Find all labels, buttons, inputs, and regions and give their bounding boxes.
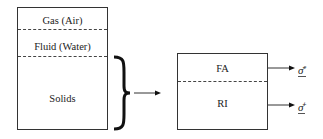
fa-label: FA — [178, 63, 267, 75]
stress-partition-box: FA RI — [177, 53, 268, 130]
curly-brace-icon — [114, 57, 130, 129]
fa-ri-divider — [178, 81, 267, 82]
brace-arrowhead-icon — [155, 91, 161, 96]
fa-arrowhead-icon — [289, 66, 295, 71]
connectors — [0, 0, 323, 139]
sigma-i-symbol: σ̄i — [298, 99, 305, 114]
ri-arrowhead-icon — [289, 103, 295, 108]
ri-label: RI — [178, 98, 267, 110]
sigma-e-symbol: σ̄e — [298, 62, 306, 77]
